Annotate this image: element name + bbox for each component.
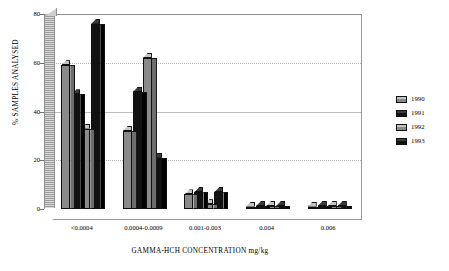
- y-tick-mark: [40, 14, 44, 15]
- bar-top: [123, 126, 132, 131]
- bar-side: [90, 129, 95, 209]
- bar-side: [100, 24, 105, 209]
- bar-side: [337, 206, 342, 209]
- bar-top: [133, 87, 142, 92]
- bar-top: [318, 201, 327, 206]
- bar-1990-<0.0004[interactable]: [61, 65, 70, 209]
- legend-swatch: [396, 96, 407, 103]
- bar-side: [80, 94, 85, 209]
- bar-top: [91, 19, 100, 24]
- x-category-label: 0.006: [321, 224, 336, 231]
- y-tick-label: 40: [33, 108, 40, 115]
- bar-1990-0.001-0.003[interactable]: [184, 194, 193, 209]
- plot-floor: [44, 208, 362, 220]
- bar-side: [213, 204, 218, 209]
- bar-side: [285, 206, 290, 209]
- legend-label: 1991: [411, 110, 425, 117]
- bar-face: [246, 207, 255, 210]
- bar-1990-0.006[interactable]: [308, 207, 317, 210]
- y-tick-mark: [40, 209, 44, 210]
- bar-side: [70, 65, 75, 209]
- legend-item-1990[interactable]: 1990: [396, 92, 425, 106]
- bar-side: [265, 206, 270, 209]
- legend-label: 1992: [411, 124, 425, 131]
- x-category-label: 0.004: [259, 224, 274, 231]
- bar-group: [115, 14, 177, 209]
- bar-side: [327, 206, 332, 209]
- bar-top: [143, 53, 152, 58]
- bar-side: [152, 58, 157, 209]
- legend-item-1993[interactable]: 1993: [396, 134, 425, 148]
- bar-side: [223, 192, 228, 209]
- chart-container: % SAMPLES ANALYSED 020406080 <0.00040.00…: [0, 0, 449, 271]
- bar-series-area: [53, 14, 361, 209]
- bar-top: [256, 201, 265, 206]
- bar-top: [194, 187, 203, 192]
- bar-face: [308, 207, 317, 210]
- bar-side: [317, 207, 322, 210]
- bar-top: [246, 202, 255, 207]
- bar-side: [162, 158, 167, 209]
- y-axis-title: % SAMPLES ANALYSED: [12, 12, 20, 152]
- legend-item-1992[interactable]: 1992: [396, 120, 425, 134]
- y-tick-mark: [40, 160, 44, 161]
- x-category-label: 0.0004-0.0009: [124, 224, 162, 231]
- x-axis-title: GAMMA-HCH CONCENTRATION mg/kg: [0, 247, 400, 255]
- bar-group: [299, 14, 361, 209]
- y-tick-mark: [40, 112, 44, 113]
- legend-label: 1993: [411, 138, 425, 145]
- bar-1990-0.0004-0.0009[interactable]: [123, 131, 132, 209]
- bar-side: [255, 207, 260, 210]
- legend-swatch: [396, 124, 407, 131]
- bar-1990-0.004[interactable]: [246, 207, 255, 210]
- bar-side: [142, 92, 147, 209]
- bar-face: [184, 194, 193, 209]
- bar-side: [193, 194, 198, 209]
- legend-swatch: [396, 110, 407, 117]
- bar-side: [203, 192, 208, 209]
- bar-top: [184, 189, 193, 194]
- x-category-label: 0.001-0.003: [189, 224, 221, 231]
- legend-label: 1990: [411, 96, 425, 103]
- bar-side: [347, 206, 352, 209]
- legend-swatch: [396, 138, 407, 145]
- bar-top: [214, 187, 223, 192]
- bar-group: [53, 14, 115, 209]
- y-tick-label: 80: [33, 11, 40, 18]
- chart-legend: 1990199119921993: [396, 92, 425, 148]
- y-tick-mark: [40, 63, 44, 64]
- bar-group: [238, 14, 300, 209]
- bar-top: [61, 60, 70, 65]
- y-tick-label: 60: [33, 59, 40, 66]
- bar-top: [308, 202, 317, 207]
- bar-side: [275, 206, 280, 209]
- plot-area: 020406080: [44, 14, 362, 220]
- bar-face: [61, 65, 70, 209]
- y-tick-label: 20: [33, 157, 40, 164]
- legend-item-1991[interactable]: 1991: [396, 106, 425, 120]
- bar-group: [176, 14, 238, 209]
- x-category-label: <0.0004: [71, 224, 93, 231]
- bar-side: [132, 131, 137, 209]
- bar-face: [123, 131, 132, 209]
